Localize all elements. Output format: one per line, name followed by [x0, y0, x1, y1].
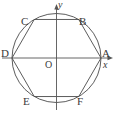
vertex-label-f: F: [77, 96, 83, 107]
y-axis-label: y: [58, 0, 62, 10]
x-axis-label: x: [103, 60, 107, 70]
vertex-label-e: E: [23, 96, 30, 107]
vertex-label-c: C: [21, 16, 28, 27]
vertex-label-d: D: [1, 48, 9, 59]
origin-label: O: [45, 60, 52, 70]
geometry-figure: C B D A E F O y x: [0, 0, 117, 117]
vertex-label-b: B: [79, 16, 86, 27]
vertex-label-a: A: [102, 48, 110, 59]
geometry-canvas: [0, 0, 117, 117]
